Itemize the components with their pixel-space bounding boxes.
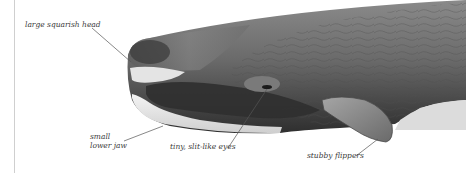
whale-diagram: large squarish head small lower jaw tiny… [0,0,466,173]
leader-line-head [92,28,131,62]
forehead-patch [130,40,170,64]
label-slit-like-eyes: tiny, slit-like eyes [170,142,236,151]
eye-bulge [244,76,280,92]
leader-line-jaw [124,126,163,141]
label-jaw-line-1: small [90,132,127,141]
eye-icon [262,85,272,89]
label-stubby-flippers: stubby flippers [307,151,364,160]
label-small-lower-jaw: small lower jaw [90,132,127,150]
label-large-squarish-head: large squarish head [25,20,101,29]
label-jaw-line-2: lower jaw [90,141,127,150]
